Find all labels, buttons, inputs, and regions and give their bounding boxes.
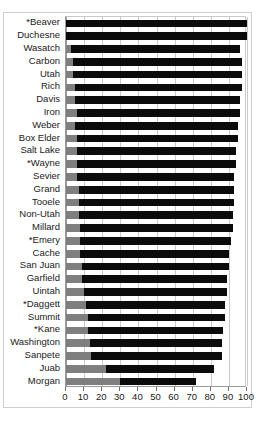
bar-segment-lower-segment [66,199,79,207]
bar-segment-upper-segment [79,211,233,219]
bar-row [66,365,245,373]
category-label: Non-Utah [19,209,60,219]
bar-row [66,45,245,53]
x-tick-label: 50 [150,391,161,402]
bar-segment-upper-segment [66,32,247,40]
bar-segment-lower-segment [66,339,90,347]
bar-row [66,275,245,283]
category-label: Salt Lake [20,145,60,155]
bar-segment-upper-segment [80,224,232,232]
bar-segment-lower-segment [66,327,88,335]
bar-row [66,58,245,66]
category-label: San Juan [20,260,60,270]
bar-segment-lower-segment [66,173,77,181]
bar-row [66,135,245,143]
bar-segment-lower-segment [66,250,80,258]
bar-row [66,288,245,296]
bar-segment-upper-segment [75,96,240,104]
bar-segment-lower-segment [66,147,77,155]
bar-row [66,263,245,271]
bar-segment-upper-segment [82,275,227,283]
bar-segment-upper-segment [120,378,196,386]
bar-row [66,20,245,28]
category-label: Washington [10,337,60,347]
bar-segment-upper-segment [80,250,228,258]
bar-segment-lower-segment [66,84,75,92]
category-label: *Emery [29,235,60,245]
bar-segment-upper-segment [73,71,241,79]
bar-segment-upper-segment [77,109,240,117]
category-label: Juab [39,363,60,373]
category-label: Grand [34,184,60,194]
bar-segment-lower-segment [66,160,77,168]
bar-row [66,211,245,219]
bar-row [66,339,245,347]
category-label: Utah [40,69,60,79]
bar-segment-upper-segment [80,237,230,245]
bar-segment-upper-segment [84,288,227,296]
category-axis-labels: *BeaverDuchesneWasatchCarbonUtahRichDavi… [0,16,63,387]
category-label: Morgan [28,376,60,386]
bar-segment-lower-segment [66,122,75,130]
x-tick-label: 0 [62,391,67,402]
bar-segment-lower-segment [66,352,91,360]
category-label: Summit [28,312,60,322]
bar-row [66,237,245,245]
chart-title [0,0,259,5]
x-tick-label: 40 [132,391,143,402]
category-label: Davis [36,94,60,104]
bar-segment-lower-segment [66,96,75,104]
bar-segment-upper-segment [79,186,235,194]
category-label: Sevier [33,171,60,181]
bar-row [66,96,245,104]
bar-segment-upper-segment [82,263,229,271]
bar-row [66,147,245,155]
bar-row [66,352,245,360]
bar-segment-upper-segment [86,301,225,309]
bar-row [66,314,245,322]
bar-segment-upper-segment [88,314,226,322]
bar-row [66,173,245,181]
bar-segment-lower-segment [66,365,106,373]
bar-segment-lower-segment [66,109,77,117]
bar-row [66,122,245,130]
category-label: *Wayne [27,158,60,168]
bar-segment-upper-segment [106,365,215,373]
x-tick-label: 30 [114,391,125,402]
category-label: Garfield [27,273,60,283]
bar-row [66,71,245,79]
x-tick-label: 80 [205,391,216,402]
category-label: Uintah [33,286,60,296]
bar-rows [66,17,245,386]
bar-segment-upper-segment [71,45,239,53]
x-tick-label: 10 [78,391,89,402]
bar-row [66,84,245,92]
bar-row [66,199,245,207]
bar-segment-lower-segment [66,224,80,232]
bar-row [66,186,245,194]
bar-segment-lower-segment [66,186,79,194]
bar-row [66,327,245,335]
category-label: Weber [32,120,60,130]
x-tick-label: 60 [168,391,179,402]
bar-segment-upper-segment [77,135,238,143]
bar-segment-upper-segment [66,20,247,28]
bar-segment-lower-segment [66,378,120,386]
plot-area [65,16,246,387]
category-label: Box Elder [19,133,60,143]
category-label: Duchesne [17,30,60,40]
bar-segment-upper-segment [77,147,236,155]
bar-segment-upper-segment [91,352,221,360]
bar-row [66,109,245,117]
bar-segment-upper-segment [77,160,236,168]
category-label: *Kane [34,324,60,334]
bar-segment-lower-segment [66,71,73,79]
gridline-100 [247,17,248,386]
category-label: Millard [32,222,60,232]
category-label: Wasatch [23,43,60,53]
bar-segment-upper-segment [75,122,238,130]
bar-segment-lower-segment [66,314,88,322]
bar-segment-lower-segment [66,288,84,296]
bar-segment-lower-segment [66,237,80,245]
bar-segment-upper-segment [90,339,222,347]
